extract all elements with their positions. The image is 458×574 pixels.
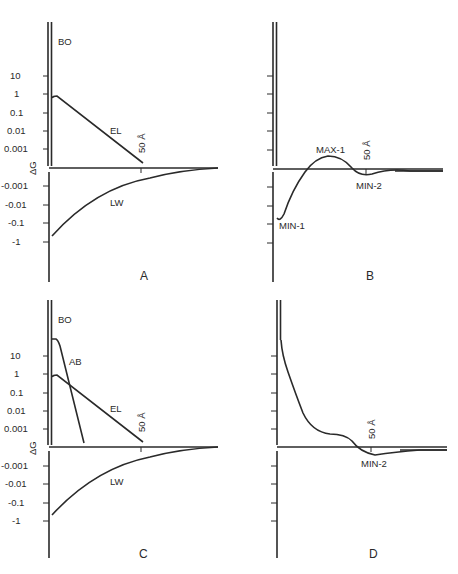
panel-label-a: A <box>140 269 148 283</box>
tick-label: 0.01 <box>7 125 26 136</box>
panel-b: MAX-1 MIN-1 MIN-2 50 Å B <box>267 22 443 283</box>
lw-label: LW <box>110 476 124 487</box>
distance-label: 50 Å <box>136 133 147 153</box>
tick-label: -0.1 <box>8 497 24 508</box>
el-label: EL <box>110 403 122 414</box>
lw-curve <box>52 447 218 515</box>
min1-label: MIN-1 <box>279 220 305 231</box>
distance-label: 50 Å <box>136 412 147 432</box>
ab-label: AB <box>69 356 82 367</box>
panel-label-c: C <box>139 547 148 561</box>
tick-label: 0.001 <box>4 143 28 154</box>
y-axis-label: ΔG <box>27 161 38 175</box>
el-label: EL <box>110 125 122 136</box>
total-energy-curve <box>281 340 447 455</box>
el-curve <box>52 375 143 442</box>
tick-label: -0.1 <box>8 217 24 228</box>
distance-label: 50 Å <box>361 140 372 160</box>
tick-label: 0.1 <box>10 107 23 118</box>
panel-d: MIN-2 50 Å D <box>271 300 447 561</box>
el-curve <box>52 96 143 163</box>
tick-label: 0.001 <box>4 423 28 434</box>
min2-label: MIN-2 <box>356 180 382 191</box>
distance-label: 50 Å <box>366 419 377 439</box>
tick-label: 10 <box>10 70 21 81</box>
tick-label: 0.1 <box>10 387 23 398</box>
tick-label: -1 <box>12 515 20 526</box>
panel-label-d: D <box>369 547 378 561</box>
tick-label: -0.001 <box>1 180 28 191</box>
tick-label: 1 <box>14 88 19 99</box>
tick-label: 0.01 <box>7 405 26 416</box>
lw-curve <box>52 168 218 236</box>
tick-label: 10 <box>10 350 21 361</box>
figure-canvas: 10 1 0.1 0.01 0.001 -0.001 -0.01 -0.1 -1… <box>0 0 458 574</box>
panel-label-b: B <box>366 269 374 283</box>
y-ticks <box>267 76 273 243</box>
tick-label: -0.001 <box>1 460 28 471</box>
panel-c: 10 1 0.1 0.01 0.001 -0.001 -0.01 -0.1 -1… <box>1 300 218 561</box>
tick-label: -0.01 <box>5 199 27 210</box>
y-axis-label: ΔG <box>27 441 38 455</box>
ab-curve <box>52 339 84 443</box>
tick-label: -1 <box>12 236 20 247</box>
tick-label: 1 <box>14 368 19 379</box>
y-ticks <box>271 356 277 521</box>
min2-label: MIN-2 <box>361 458 387 469</box>
max1-label: MAX-1 <box>316 144 345 155</box>
tick-label: -0.01 <box>5 478 27 489</box>
bo-label: BO <box>58 314 72 325</box>
lw-label: LW <box>110 197 124 208</box>
panel-a: 10 1 0.1 0.01 0.001 -0.001 -0.01 -0.1 -1… <box>1 22 218 283</box>
bo-label: BO <box>58 36 72 47</box>
